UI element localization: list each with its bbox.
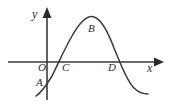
y-axis-label: y <box>32 8 37 20</box>
point-label-a: A <box>36 77 43 88</box>
graph-canvas <box>0 0 170 105</box>
y-axis-arrow-icon <box>43 7 52 18</box>
function-graph-figure: y x O A B C D <box>0 0 170 105</box>
point-label-b: B <box>88 23 95 34</box>
origin-label: O <box>38 62 46 73</box>
point-label-d: D <box>108 62 116 73</box>
point-label-c: C <box>62 62 69 73</box>
x-axis-label: x <box>147 62 152 74</box>
x-axis-arrow-icon <box>154 58 164 67</box>
